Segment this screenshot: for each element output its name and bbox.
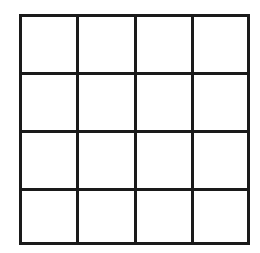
grid-cell <box>137 191 191 242</box>
grid-cell <box>22 191 76 242</box>
grid-cell <box>79 75 134 130</box>
grid-cell <box>194 17 247 72</box>
grid-cell <box>79 133 134 188</box>
grid-cell <box>22 133 76 188</box>
grid-4x4 <box>19 14 250 245</box>
grid-cell <box>137 133 191 188</box>
grid-cell <box>137 75 191 130</box>
grid-cell <box>22 17 76 72</box>
grid-cell <box>79 191 134 242</box>
grid-cell <box>194 133 247 188</box>
grid-cell <box>79 17 134 72</box>
grid-cell <box>137 17 191 72</box>
grid-cell <box>22 75 76 130</box>
grid-border-horizontal <box>19 242 250 245</box>
grid-cell <box>194 75 247 130</box>
grid-cell <box>194 191 247 242</box>
